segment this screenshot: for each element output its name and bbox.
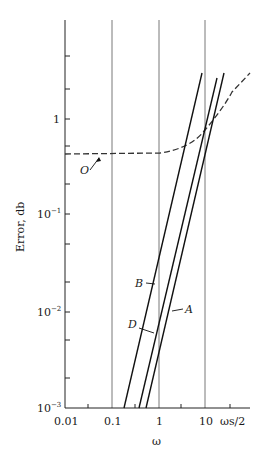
y-minor-ticks [65,56,70,378]
x-tick-ws2: ωs/2 [220,415,245,428]
label-B: B [134,277,143,290]
chart-svg: 1 10−1 10−2 10−3 0.01 0.1 1 10 ωs/2 Erro… [0,0,270,457]
x-axis-label: ω [152,435,161,448]
chart-container: 1 10−1 10−2 10−3 0.01 0.1 1 10 ωs/2 Erro… [0,0,270,457]
x-tick-0.01: 0.01 [54,415,79,428]
label-D: D [127,318,137,331]
y-axis-label: Error, db [14,202,27,252]
x-tick-1: 1 [156,415,163,428]
leader-A [172,309,183,311]
curve-O [65,73,250,154]
arrow-O-icon [96,157,101,162]
x-tick-0.1: 0.1 [104,415,122,428]
y-tick-1e-1: 10−1 [37,207,61,221]
label-A: A [184,303,193,316]
y-tick-1e-2: 10−2 [37,305,61,319]
label-O: O [80,164,89,177]
y-tick-1: 1 [53,113,60,126]
curve-A [146,73,224,408]
curve-B [124,73,202,408]
y-tick-1e-3: 10−3 [37,401,61,415]
x-tick-10: 10 [199,415,213,428]
